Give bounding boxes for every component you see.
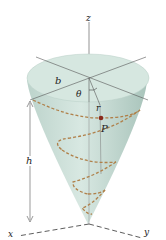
cone-top [27, 54, 149, 102]
label-b: b [55, 76, 61, 86]
x-axis [18, 224, 89, 236]
cone-diagram: z b θ r P h x y [0, 0, 166, 240]
label-y: y [144, 228, 149, 237]
cone-svg [0, 0, 166, 240]
label-h: h [26, 156, 32, 166]
y-axis [89, 224, 142, 238]
label-theta: θ [76, 90, 81, 99]
label-x: x [8, 230, 13, 239]
point-P [99, 116, 104, 121]
label-z: z [86, 14, 91, 23]
label-r: r [96, 104, 100, 113]
label-P: P [101, 124, 108, 134]
